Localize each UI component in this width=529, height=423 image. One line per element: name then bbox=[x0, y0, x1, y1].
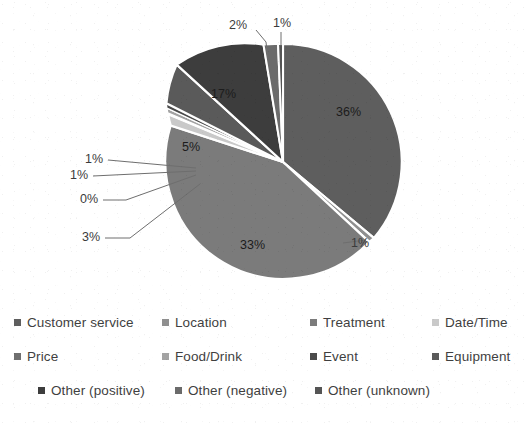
legend-label: Location bbox=[175, 315, 227, 330]
legend-swatch-icon bbox=[162, 319, 169, 326]
legend-item-equipment[interactable]: Equipment bbox=[432, 349, 510, 364]
legend-row: Price Food/Drink Event Equipment bbox=[0, 339, 529, 373]
legend-item-food-drink[interactable]: Food/Drink bbox=[162, 349, 310, 364]
legend-swatch-icon bbox=[432, 319, 439, 326]
legend-label: Customer service bbox=[27, 315, 134, 330]
legend-item-other-positive[interactable]: Other (positive) bbox=[38, 383, 175, 398]
pie-label-price: 0% bbox=[80, 193, 98, 206]
legend-swatch-icon bbox=[38, 387, 45, 394]
legend-item-price[interactable]: Price bbox=[14, 349, 162, 364]
legend-swatch-icon bbox=[310, 319, 317, 326]
pie-label-date-time: 3% bbox=[82, 231, 100, 244]
legend-swatch-icon bbox=[315, 387, 322, 394]
legend-swatch-icon bbox=[432, 353, 439, 360]
legend-label: Other (positive) bbox=[51, 383, 145, 398]
legend-label: Other (unknown) bbox=[328, 383, 430, 398]
legend-item-other-unknown[interactable]: Other (unknown) bbox=[315, 383, 430, 398]
legend-label: Equipment bbox=[445, 349, 510, 364]
legend-swatch-icon bbox=[162, 353, 169, 360]
legend-item-customer-service[interactable]: Customer service bbox=[14, 315, 162, 330]
legend-swatch-icon bbox=[14, 353, 21, 360]
legend-item-treatment[interactable]: Treatment bbox=[310, 315, 432, 330]
legend-label: Food/Drink bbox=[175, 349, 242, 364]
legend-label: Other (negative) bbox=[188, 383, 287, 398]
chart-legend: Customer service Location Treatment Date… bbox=[0, 305, 529, 423]
legend-item-location[interactable]: Location bbox=[162, 315, 310, 330]
pie-chart-graphic bbox=[0, 0, 529, 300]
legend-item-date-time[interactable]: Date/Time bbox=[432, 315, 508, 330]
pie-label-customer-service: 36% bbox=[336, 106, 361, 119]
pie-label-other-unknown: 1% bbox=[273, 17, 291, 30]
pie-chart: 2% 1% 36% 1% 33% 17% 5% 1% 1% 0% 3% bbox=[0, 0, 529, 300]
legend-swatch-icon bbox=[175, 387, 182, 394]
legend-row: Other (positive) Other (negative) Other … bbox=[0, 373, 529, 407]
pie-label-event: 1% bbox=[85, 153, 103, 166]
legend-label: Date/Time bbox=[445, 315, 508, 330]
legend-item-other-negative[interactable]: Other (negative) bbox=[175, 383, 315, 398]
pie-label-other-positive: 17% bbox=[211, 88, 236, 101]
pie-label-treatment: 33% bbox=[240, 239, 265, 252]
legend-swatch-icon bbox=[310, 353, 317, 360]
pie-label-food-drink: 1% bbox=[70, 169, 88, 182]
pie-label-equipment: 5% bbox=[182, 141, 200, 154]
legend-row: Customer service Location Treatment Date… bbox=[0, 305, 529, 339]
legend-label: Price bbox=[27, 349, 58, 364]
pie-label-location: 1% bbox=[351, 237, 369, 250]
legend-swatch-icon bbox=[14, 319, 21, 326]
legend-label: Event bbox=[323, 349, 358, 364]
legend-label: Treatment bbox=[323, 315, 385, 330]
legend-item-event[interactable]: Event bbox=[310, 349, 432, 364]
pie-label-other-negative: 2% bbox=[229, 19, 247, 32]
